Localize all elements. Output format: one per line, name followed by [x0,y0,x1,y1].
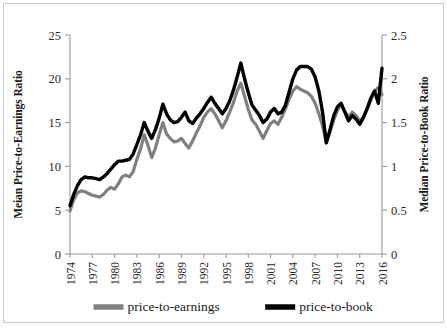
x-axis-tick-label: 1998 [243,262,255,285]
left-axis-title: Meian Price-to-Earnings Ratio [12,70,25,219]
right-axis-tick-label: 0.5 [391,204,407,218]
x-axis-tick-label: 1986 [154,262,166,285]
x-axis-tick-label: 1974 [65,262,77,285]
right-axis-tick-label: 2 [391,72,397,86]
left-axis-tick-label: 20 [49,72,62,86]
x-axis-tick-label: 2007 [310,262,322,285]
right-axis-tick-label: 1.5 [391,116,407,130]
left-axis-tick-label: 5 [55,204,61,218]
x-axis-tick-label: 2016 [377,262,389,285]
x-axis-tick-label: 2010 [332,262,344,285]
series-line-price-to-earnings [70,83,382,211]
x-axis-tick-label: 1989 [176,262,188,285]
chart-figure: 051015202500.511.522.5197419771980198319… [0,0,447,329]
legend-label-price-to-earnings: price-to-earnings [128,299,220,314]
x-axis-tick-label: 1980 [109,262,121,285]
right-axis-tick-label: 1 [391,160,397,174]
x-axis-tick-label: 2013 [354,262,366,285]
dual-axis-line-chart: 051015202500.511.522.5197419771980198319… [0,0,447,329]
left-axis-tick-label: 25 [49,29,62,43]
legend-label-price-to-book: price-to-book [299,299,373,314]
left-axis-tick-label: 15 [49,116,62,130]
left-axis-spine [70,35,382,254]
x-axis-tick-label: 1977 [87,262,99,285]
x-axis-tick-label: 1983 [131,262,143,285]
x-axis-tick-label: 2001 [265,262,277,285]
x-axis-tick-label: 2004 [287,262,299,285]
right-axis-title: Median Price-to-Book Ratio [418,76,430,212]
left-axis-tick-label: 0 [55,248,61,262]
right-axis-tick-label: 2.5 [391,29,407,43]
x-axis-tick-label: 1995 [221,262,233,285]
x-axis-tick-label: 1992 [198,262,210,285]
right-axis-tick-label: 0 [391,248,397,262]
left-axis-tick-label: 10 [49,160,62,174]
